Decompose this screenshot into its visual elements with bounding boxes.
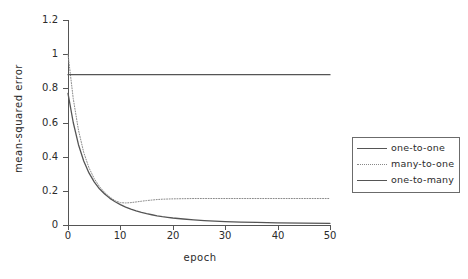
legend-swatch-solid-icon — [357, 148, 387, 149]
legend-swatch-solid-icon — [357, 180, 387, 181]
legend-label: many-to-one — [391, 158, 454, 170]
legend-label: one-to-many — [391, 174, 454, 186]
series-one-to-one — [68, 93, 330, 223]
y-axis-title: mean-squared error — [13, 49, 24, 189]
series-many-to-one — [68, 54, 330, 203]
legend: one-to-one many-to-one one-to-many — [352, 137, 460, 193]
chart-figure: 1.2 1 0.8 0.6 0.4 0.2 0 0 10 20 30 40 50… — [0, 0, 468, 279]
legend-item-one-to-many[interactable]: one-to-many — [357, 172, 457, 188]
legend-label: one-to-one — [391, 142, 445, 154]
x-axis-title: epoch — [0, 252, 400, 263]
legend-item-one-to-one[interactable]: one-to-one — [357, 140, 457, 156]
legend-swatch-dotted-icon — [357, 164, 387, 165]
legend-item-many-to-one[interactable]: many-to-one — [357, 156, 457, 172]
